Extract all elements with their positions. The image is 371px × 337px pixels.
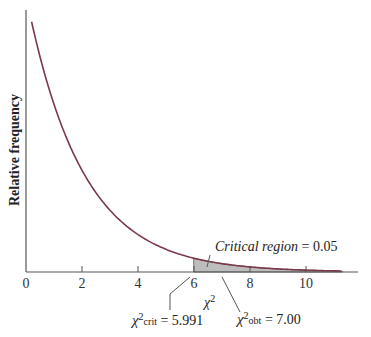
y-axis-label: Relative frequency: [7, 94, 22, 206]
chi-square-chart: 0246810 Relative frequency Critical regi…: [0, 0, 371, 337]
svg-text:4: 4: [135, 276, 142, 291]
svg-text:6: 6: [191, 276, 198, 291]
svg-text:2: 2: [79, 276, 86, 291]
critical-region-label: Critical region = 0.05: [215, 239, 338, 254]
obt-pointer: [222, 277, 240, 312]
svg-text:8: 8: [247, 276, 254, 291]
svg-text:0: 0: [23, 276, 30, 291]
density-curve: [32, 22, 341, 271]
chi-obt-label: χ2obt = 7.00: [235, 310, 301, 328]
svg-text:10: 10: [299, 276, 313, 291]
chi-crit-label: χ2crit = 5.991: [130, 311, 203, 329]
x-axis-label: χ2: [202, 293, 215, 311]
